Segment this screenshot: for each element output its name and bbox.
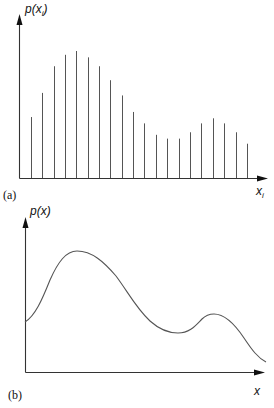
y-axis-label-a: p(xi) — [24, 2, 47, 18]
figure-canvas: p(xi) xi (a) p(x) x (b) — [0, 0, 274, 408]
panel-b-continuous-density: p(x) x (b) — [8, 204, 266, 402]
y-axis-label-b: p(x) — [29, 204, 51, 218]
stem-bars — [32, 51, 248, 178]
panel-tag-a: (a) — [3, 188, 16, 202]
x-axis-label-b: x — [253, 384, 261, 398]
arrow-up-icon — [23, 217, 29, 228]
panel-tag-b: (b) — [8, 388, 22, 402]
arrow-right-icon — [254, 370, 265, 376]
density-curve — [25, 251, 266, 362]
arrow-right-icon — [257, 176, 268, 182]
arrow-up-icon — [17, 14, 23, 25]
panel-a-discrete-distribution: p(xi) xi (a) — [3, 2, 268, 202]
x-axis-label-a: xi — [255, 184, 264, 200]
